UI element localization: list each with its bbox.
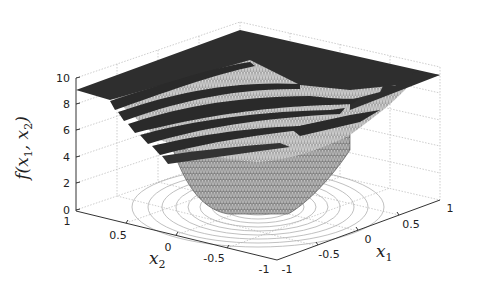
svg-text:f(x1, x2): f(x1, x2) — [12, 116, 35, 182]
svg-text:x2: x2 — [149, 248, 166, 271]
surface-plot: 0 2 4 6 8 10 1 0.5 0 -0.5 -1 -1 -0.5 0 0… — [0, 0, 477, 287]
x2-ticks: 1 0.5 0 -0.5 -1 — [64, 215, 270, 276]
z-axis-label: f(x1, x2) — [12, 116, 35, 182]
x1-axis-label: x1 — [376, 241, 393, 264]
x1-tick-neg1: -1 — [282, 263, 293, 276]
surface — [76, 30, 440, 214]
z-tick-8: 8 — [63, 98, 70, 111]
x2-tick-0.5: 0.5 — [109, 229, 127, 242]
z-tick-6: 6 — [63, 124, 70, 137]
z-tick-4: 4 — [63, 151, 70, 164]
x2-axis-label: x2 — [149, 248, 166, 271]
x1-tick-0: 0 — [365, 233, 372, 246]
x2-tick-neg1: -1 — [259, 263, 270, 276]
x2-tick-1: 1 — [64, 215, 71, 228]
x2-tick-0: 0 — [165, 241, 172, 254]
x1-tick-1: 1 — [447, 202, 454, 215]
x1-tick-0.5: 0.5 — [402, 218, 420, 231]
x2-tick-neg0.5: -0.5 — [203, 252, 224, 265]
x1-tick-neg0.5: -0.5 — [318, 248, 339, 261]
svg-text:x1: x1 — [376, 241, 393, 264]
z-tick-2: 2 — [63, 177, 70, 190]
z-tick-10: 10 — [56, 72, 70, 85]
